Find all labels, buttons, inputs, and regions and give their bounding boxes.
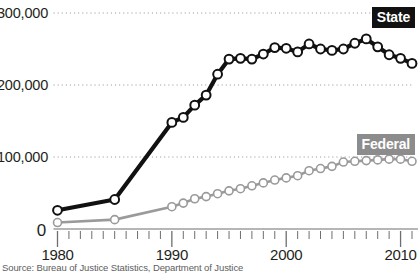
source-note: Source: Bureau of Justice Statistics, De… <box>2 263 243 273</box>
series-badge-federal: Federal <box>357 134 415 155</box>
x-tick-label: 2010 <box>384 247 416 262</box>
x-tick-label: 2000 <box>270 247 302 262</box>
x-tick-label: 1990 <box>156 247 188 262</box>
series-badge-state: State <box>372 7 415 28</box>
line-chart-figure: 300,000200,000100,0000 1980199020002010 … <box>0 0 419 274</box>
x-tick-label: 1980 <box>41 247 73 262</box>
